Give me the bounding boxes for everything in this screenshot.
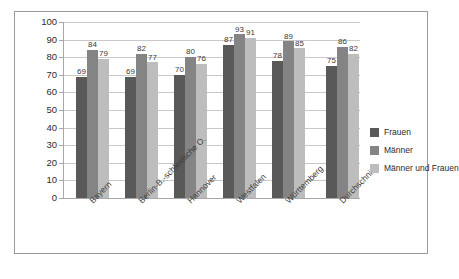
bar-group: 788985 <box>272 22 305 198</box>
bar-value-label: 79 <box>99 50 108 59</box>
y-tick-label: 80 <box>17 52 57 62</box>
bar[interactable]: 84 <box>87 50 98 198</box>
bar-value-label: 93 <box>235 26 244 35</box>
bar-value-label: 70 <box>175 66 184 75</box>
legend-swatch-icon <box>370 146 379 155</box>
bar-group: 708076 <box>174 22 207 198</box>
bar-value-label: 77 <box>148 54 157 63</box>
bar-group: 698479 <box>76 22 109 198</box>
bar-value-label: 80 <box>186 48 195 57</box>
y-tick-label: 90 <box>17 35 57 45</box>
chart-legend: FrauenMännerMänner und Frauen <box>370 128 428 182</box>
legend-item[interactable]: Frauen <box>370 128 428 137</box>
y-axis: 1009080706050403020100 <box>15 22 57 198</box>
bar-value-label: 76 <box>197 55 206 64</box>
x-axis: BayernBerlin-B.-schlesische O.HannoverWe… <box>63 199 360 255</box>
bar[interactable]: 70 <box>174 75 185 198</box>
bar[interactable]: 79 <box>98 59 109 198</box>
bar-value-label: 78 <box>273 52 282 61</box>
bar[interactable]: 85 <box>294 48 305 198</box>
bar[interactable]: 69 <box>76 77 87 198</box>
y-tick-label: 40 <box>17 123 57 133</box>
chart-frame: 1009080706050403020100 69847969827770807… <box>14 11 428 254</box>
bar-value-label: 69 <box>126 68 135 77</box>
bar-value-label: 87 <box>224 36 233 45</box>
y-tick-label: 20 <box>17 158 57 168</box>
bar[interactable]: 89 <box>283 41 294 198</box>
bar-value-label: 69 <box>77 68 86 77</box>
legend-swatch-icon <box>370 164 379 173</box>
legend-swatch-icon <box>370 128 379 137</box>
bar-value-label: 89 <box>284 33 293 42</box>
bar[interactable]: 91 <box>245 38 256 198</box>
bar[interactable]: 69 <box>125 77 136 198</box>
bar-value-label: 82 <box>137 45 146 54</box>
bar[interactable]: 75 <box>326 66 337 198</box>
y-tick-label: 70 <box>17 70 57 80</box>
bar[interactable]: 80 <box>185 57 196 198</box>
bar-group: 879391 <box>223 22 256 198</box>
legend-label: Frauen <box>384 128 411 137</box>
bar-value-label: 91 <box>246 29 255 38</box>
bar-value-label: 75 <box>327 57 336 66</box>
bar[interactable]: 78 <box>272 61 283 198</box>
y-tick-label: 50 <box>17 105 57 115</box>
y-tick-label: 0 <box>17 193 57 203</box>
legend-label: Männer <box>384 146 413 155</box>
legend-item[interactable]: Männer <box>370 146 428 155</box>
bar[interactable]: 87 <box>223 45 234 198</box>
bar-group: 758682 <box>326 22 359 198</box>
bar-value-label: 84 <box>88 41 97 50</box>
y-tick-label: 100 <box>17 17 57 27</box>
legend-item[interactable]: Männer und Frauen <box>370 164 428 173</box>
legend-label: Männer und Frauen <box>384 164 459 173</box>
bar[interactable]: 86 <box>337 47 348 198</box>
bar-value-label: 86 <box>338 38 347 47</box>
bar[interactable]: 82 <box>136 54 147 198</box>
bar-value-label: 82 <box>349 45 358 54</box>
y-tick-label: 60 <box>17 88 57 98</box>
bar-group: 698277 <box>125 22 158 198</box>
y-tick-label: 10 <box>17 176 57 186</box>
y-tick-label: 30 <box>17 140 57 150</box>
bar-value-label: 85 <box>295 40 304 49</box>
bar[interactable]: 93 <box>234 34 245 198</box>
